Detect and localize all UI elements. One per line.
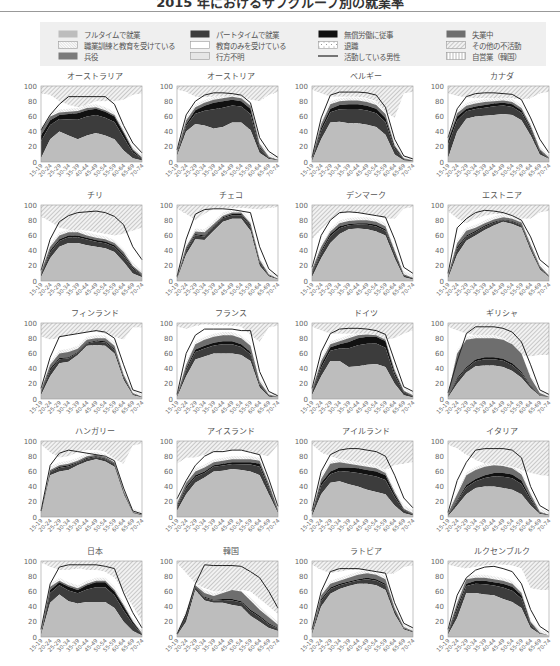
legend-item-miss: 行方不明 bbox=[190, 50, 244, 62]
svg-text:100: 100 bbox=[24, 438, 37, 446]
svg-text:60: 60 bbox=[28, 588, 37, 596]
svg-text:100: 100 bbox=[24, 320, 37, 328]
svg-text:60: 60 bbox=[299, 113, 308, 121]
svg-text:20: 20 bbox=[299, 143, 308, 151]
chart-panel: イタリア 02040608010015-1920-2425-2930-3435-… bbox=[411, 425, 551, 543]
svg-text:40: 40 bbox=[164, 128, 173, 136]
legend-label: フルタイムで就業 bbox=[84, 29, 140, 40]
svg-text:60: 60 bbox=[164, 113, 173, 121]
svg-text:20: 20 bbox=[164, 143, 173, 151]
legend-swatch bbox=[190, 30, 210, 38]
svg-text:100: 100 bbox=[160, 320, 173, 328]
svg-text:20: 20 bbox=[435, 498, 444, 506]
svg-text:60: 60 bbox=[435, 468, 444, 476]
svg-text:20: 20 bbox=[435, 143, 444, 151]
svg-text:100: 100 bbox=[431, 202, 444, 210]
chart-panel: デンマーク 02040608010015-1920-2425-2930-3435… bbox=[275, 189, 415, 307]
svg-text:80: 80 bbox=[28, 98, 37, 106]
svg-text:40: 40 bbox=[164, 603, 173, 611]
legend-label: パートタイムで就業 bbox=[216, 29, 279, 40]
svg-text:100: 100 bbox=[295, 438, 308, 446]
svg-text:40: 40 bbox=[28, 483, 37, 491]
svg-text:100: 100 bbox=[295, 320, 308, 328]
svg-text:100: 100 bbox=[160, 83, 173, 91]
svg-text:100: 100 bbox=[160, 558, 173, 566]
svg-text:80: 80 bbox=[164, 98, 173, 106]
svg-text:60: 60 bbox=[435, 588, 444, 596]
svg-text:20: 20 bbox=[435, 380, 444, 388]
svg-text:80: 80 bbox=[435, 335, 444, 343]
legend-swatch bbox=[58, 52, 78, 60]
chart-panel: ドイツ 02040608010015-1920-2425-2930-3435-3… bbox=[275, 307, 415, 425]
svg-text:60: 60 bbox=[435, 113, 444, 121]
svg-text:100: 100 bbox=[431, 83, 444, 91]
legend-label: その他の不活動 bbox=[472, 40, 521, 51]
svg-text:40: 40 bbox=[435, 128, 444, 136]
svg-text:20: 20 bbox=[435, 618, 444, 626]
chart-panel: 韓国 02040608010015-1920-2425-2930-3435-39… bbox=[140, 545, 280, 663]
svg-text:100: 100 bbox=[24, 202, 37, 210]
svg-text:60: 60 bbox=[28, 350, 37, 358]
legend-label: 退職 bbox=[344, 40, 358, 51]
title-divider bbox=[0, 11, 560, 12]
svg-text:80: 80 bbox=[164, 573, 173, 581]
svg-text:40: 40 bbox=[299, 603, 308, 611]
chart-panel: 日本 02040608010015-1920-2425-2930-3435-39… bbox=[4, 545, 144, 663]
svg-text:100: 100 bbox=[295, 558, 308, 566]
legend-swatch bbox=[318, 41, 338, 49]
svg-text:40: 40 bbox=[164, 247, 173, 255]
legend-label: 兵役 bbox=[84, 51, 98, 62]
legend-label: 失業中 bbox=[472, 29, 493, 40]
svg-text:60: 60 bbox=[28, 113, 37, 121]
svg-text:60: 60 bbox=[28, 232, 37, 240]
svg-text:60: 60 bbox=[299, 468, 308, 476]
svg-text:80: 80 bbox=[164, 453, 173, 461]
legend-label: 活動している男性 bbox=[344, 51, 400, 62]
svg-text:80: 80 bbox=[28, 335, 37, 343]
svg-text:60: 60 bbox=[299, 232, 308, 240]
svg-text:100: 100 bbox=[24, 83, 37, 91]
chart-panel: ラトビア 02040608010015-1920-2425-2930-3435-… bbox=[275, 545, 415, 663]
svg-text:60: 60 bbox=[164, 350, 173, 358]
svg-text:80: 80 bbox=[435, 453, 444, 461]
chart-panel: チェコ 02040608010015-1920-2425-2930-3435-3… bbox=[140, 189, 280, 307]
svg-text:40: 40 bbox=[28, 365, 37, 373]
svg-text:60: 60 bbox=[299, 588, 308, 596]
svg-text:100: 100 bbox=[431, 438, 444, 446]
chart-panel: ギリシャ 02040608010015-1920-2425-2930-3435-… bbox=[411, 307, 551, 425]
svg-text:40: 40 bbox=[435, 483, 444, 491]
svg-text:40: 40 bbox=[299, 483, 308, 491]
svg-text:80: 80 bbox=[28, 573, 37, 581]
chart-panel: ルクセンブルク 02040608010015-1920-2425-2930-34… bbox=[411, 545, 551, 663]
svg-text:40: 40 bbox=[299, 128, 308, 136]
svg-text:40: 40 bbox=[299, 247, 308, 255]
legend-label: 教育のみを受けている bbox=[216, 40, 286, 51]
svg-text:40: 40 bbox=[164, 483, 173, 491]
legend-swatch bbox=[58, 30, 78, 38]
legend-label: 行方不明 bbox=[216, 51, 244, 62]
chart-panel: アイスランド 02040608010015-1920-2425-2930-343… bbox=[140, 425, 280, 543]
svg-text:20: 20 bbox=[164, 498, 173, 506]
svg-text:20: 20 bbox=[164, 618, 173, 626]
svg-text:80: 80 bbox=[28, 217, 37, 225]
svg-text:80: 80 bbox=[299, 217, 308, 225]
svg-text:20: 20 bbox=[299, 498, 308, 506]
svg-text:80: 80 bbox=[299, 98, 308, 106]
chart-panel: ベルギー 02040608010015-1920-2425-2930-3435-… bbox=[275, 70, 415, 188]
legend-swatch bbox=[190, 41, 210, 49]
svg-text:100: 100 bbox=[160, 438, 173, 446]
svg-text:20: 20 bbox=[164, 262, 173, 270]
svg-text:100: 100 bbox=[295, 83, 308, 91]
chart-panel: オーストリア 02040608010015-1920-2425-2930-343… bbox=[140, 70, 280, 188]
page-title: 2015 年におけるサブグループ別の就業率 bbox=[0, 0, 560, 11]
svg-text:20: 20 bbox=[435, 262, 444, 270]
legend-swatch bbox=[446, 52, 466, 60]
chart-panel: アイルランド 02040608010015-1920-2425-2930-343… bbox=[275, 425, 415, 543]
svg-text:60: 60 bbox=[299, 350, 308, 358]
legend-swatch bbox=[318, 30, 338, 38]
svg-text:40: 40 bbox=[28, 247, 37, 255]
chart-panel: エストニア 02040608010015-1920-2425-2930-3435… bbox=[411, 189, 551, 307]
legend-item-male: 活動している男性 bbox=[318, 50, 400, 62]
legend-label: 職業訓練と教育を受けている bbox=[84, 40, 175, 51]
chart-panel: カナダ 02040608010015-1920-2425-2930-3435-3… bbox=[411, 70, 551, 188]
